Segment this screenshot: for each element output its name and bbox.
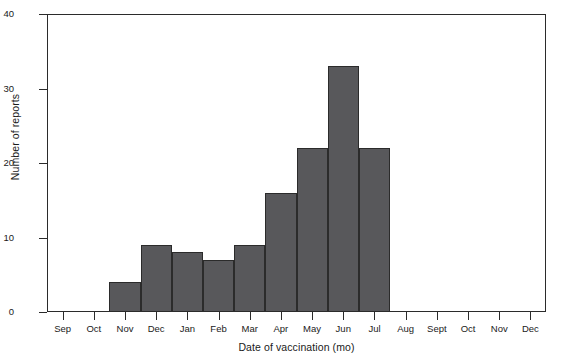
x-tick-mark-11: [406, 312, 407, 320]
x-axis: SepOctNovDecJanFebMarAprMayJunJulAugSept…: [47, 312, 546, 363]
x-tick-mark-10: [374, 312, 375, 320]
bar-mar-6: [234, 245, 265, 312]
bar-dec-3: [141, 245, 172, 312]
bar-nov-2: [109, 282, 140, 312]
x-tick-mark-8: [312, 312, 313, 320]
x-tick-mark-12: [437, 312, 438, 320]
x-tick-mark-6: [250, 312, 251, 320]
y-tick-label-20: 20: [3, 158, 14, 168]
y-tick-label-0: 0: [9, 307, 14, 317]
x-axis-title: Date of vaccination (mo): [47, 341, 546, 353]
bar-may-8: [297, 148, 328, 312]
y-tick-mark-0: [39, 312, 47, 313]
y-tick-mark-20: [39, 163, 47, 164]
x-tick-mark-15: [530, 312, 531, 320]
bar-jun-9: [328, 66, 359, 312]
bar-feb-5: [203, 260, 234, 312]
bar-jul-10: [359, 148, 390, 312]
y-axis: Number of reports 010203040: [0, 0, 47, 363]
x-tick-mark-13: [468, 312, 469, 320]
x-tick-mark-1: [94, 312, 95, 320]
y-tick-label-10: 10: [3, 233, 14, 243]
bar-apr-7: [265, 193, 296, 312]
chart-figure: Number of reports 010203040 SepOctNovDec…: [0, 0, 568, 363]
x-tick-mark-7: [281, 312, 282, 320]
x-tick-label-15: Dec: [506, 323, 554, 334]
bar-jan-4: [172, 252, 203, 312]
y-tick-mark-10: [39, 238, 47, 239]
y-tick-label-30: 30: [3, 84, 14, 94]
y-tick-mark-30: [39, 89, 47, 90]
x-tick-mark-5: [219, 312, 220, 320]
x-tick-mark-4: [187, 312, 188, 320]
bars-layer: [47, 14, 546, 312]
x-tick-mark-14: [499, 312, 500, 320]
y-tick-label-40: 40: [3, 9, 14, 19]
x-tick-mark-2: [125, 312, 126, 320]
y-tick-mark-40: [39, 14, 47, 15]
x-tick-mark-9: [343, 312, 344, 320]
x-tick-mark-3: [156, 312, 157, 320]
y-axis-title: Number of reports: [9, 77, 21, 197]
x-tick-mark-0: [63, 312, 64, 320]
